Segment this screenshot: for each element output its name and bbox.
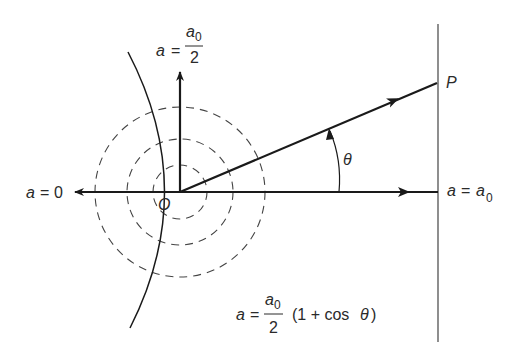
point-label: P <box>446 74 457 91</box>
svg-text:a: a <box>447 182 456 199</box>
svg-text:0: 0 <box>486 191 493 205</box>
svg-text:θ: θ <box>360 306 369 323</box>
svg-text:a: a <box>476 182 485 199</box>
svg-text:a: a <box>156 42 165 59</box>
svg-text:2: 2 <box>190 49 199 66</box>
label-a-equals-a0: a = a 0 <box>447 182 493 205</box>
angle-label: θ <box>343 151 352 168</box>
ray-to-p <box>180 83 437 192</box>
formula-a-equals: a = a 0 2 (1 + cos θ ) <box>236 291 376 336</box>
ray-arrowhead <box>386 94 401 108</box>
svg-text:a: a <box>236 306 245 323</box>
svg-text:=: = <box>40 184 49 201</box>
diagram-canvas: O P θ a = 0 a = a 0 a = a 0 2 a = a 0 2 … <box>0 0 517 354</box>
svg-text:=: = <box>461 182 470 199</box>
svg-text:2: 2 <box>269 319 278 336</box>
angle-arc <box>330 131 340 192</box>
svg-text:a: a <box>265 291 274 308</box>
svg-text:a: a <box>186 23 195 40</box>
label-a-equals-0: a = 0 <box>26 184 63 201</box>
svg-text:a: a <box>26 184 35 201</box>
svg-text:(1 + cos: (1 + cos <box>292 306 354 323</box>
svg-text:0: 0 <box>274 298 281 312</box>
svg-text:0: 0 <box>54 184 63 201</box>
label-a-equals-a0-over-2: a = a 0 2 <box>156 23 203 66</box>
svg-text:=: = <box>250 306 259 323</box>
svg-text:0: 0 <box>195 30 202 44</box>
wavefront-curve <box>128 52 165 328</box>
svg-text:=: = <box>171 42 180 59</box>
svg-text:): ) <box>371 306 376 323</box>
origin-label: O <box>158 196 170 213</box>
